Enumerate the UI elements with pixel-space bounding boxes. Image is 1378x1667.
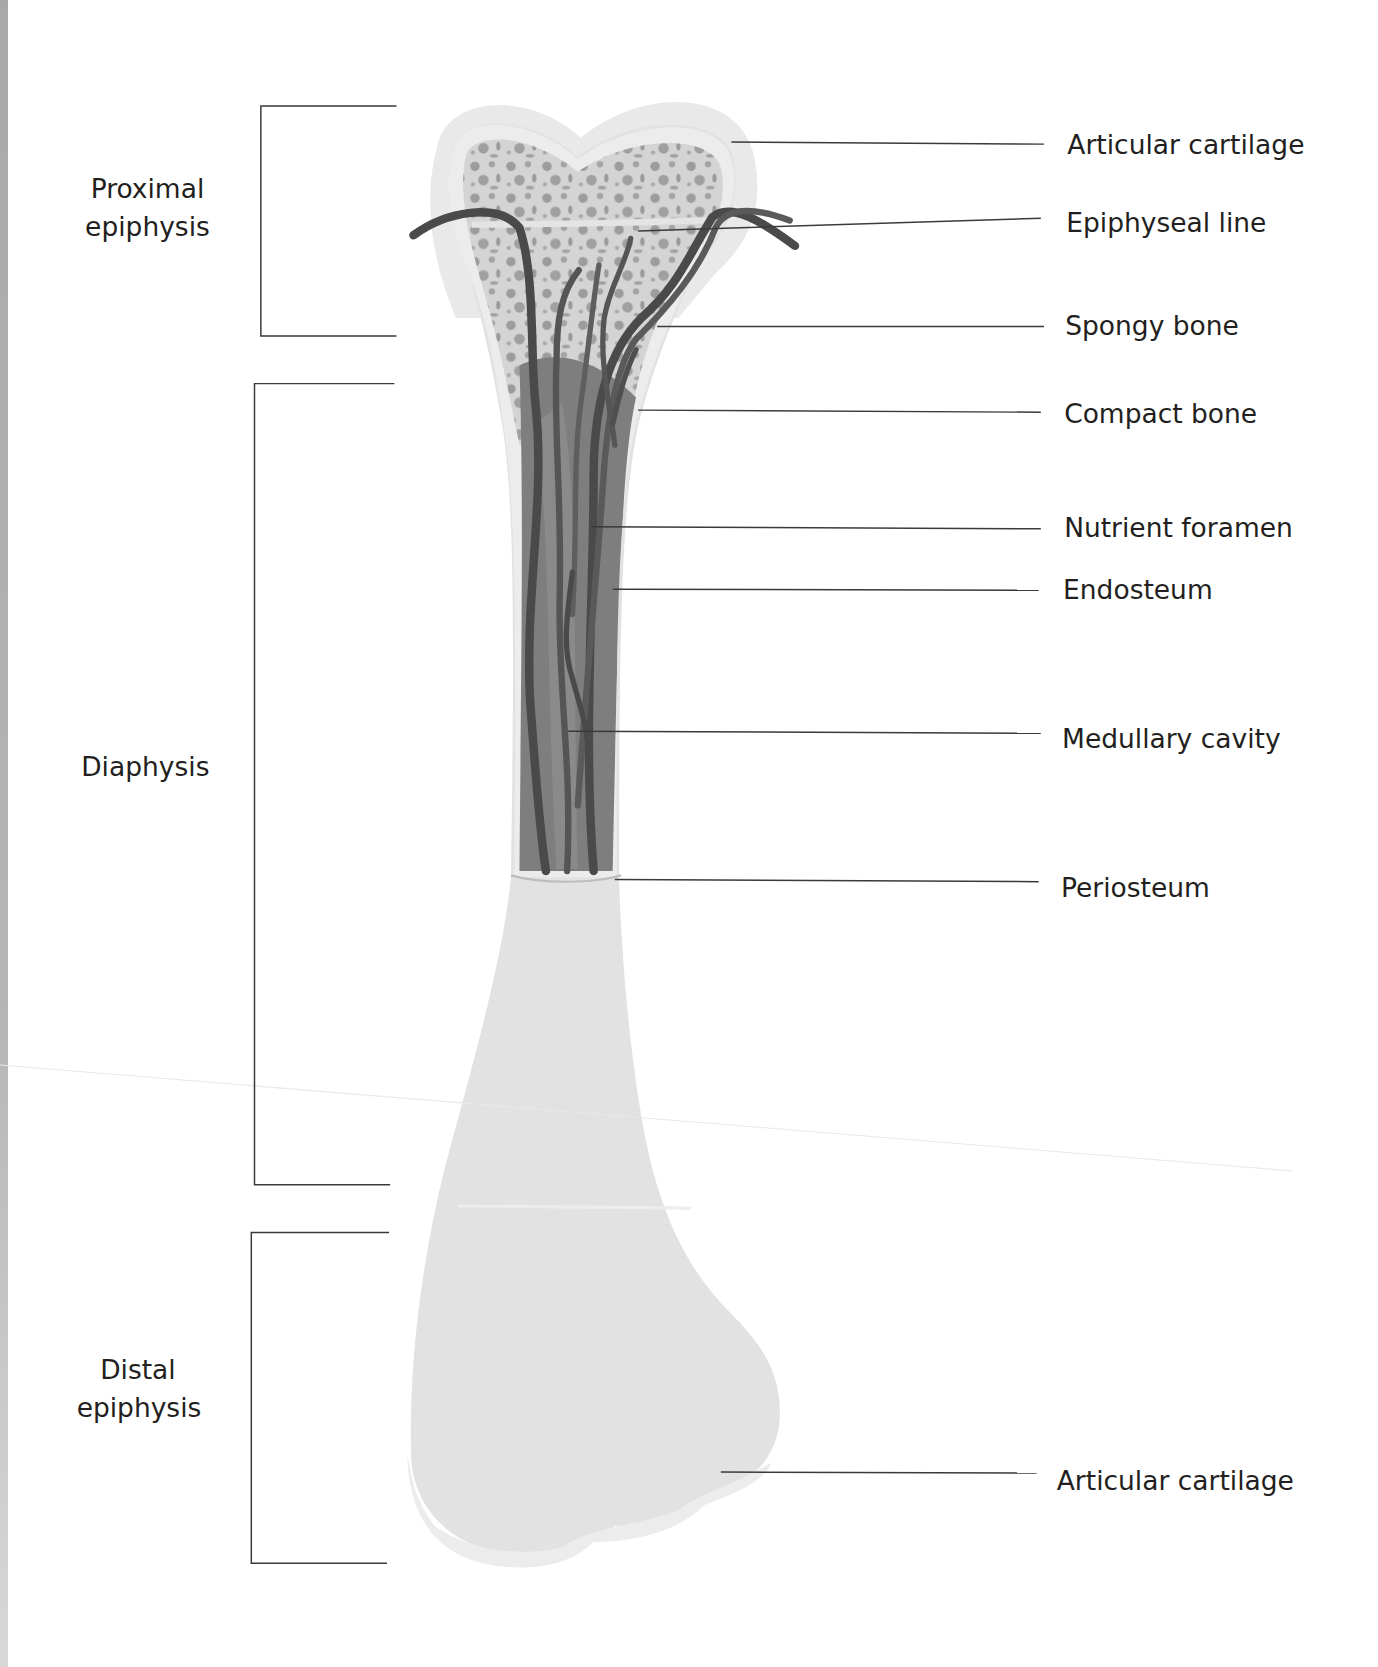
label-articular-cartilage-top: Articular cartilage	[1067, 129, 1304, 160]
region-label-proximal-line2: epiphysis	[85, 211, 210, 242]
bracket-proximal-epiphysis	[261, 106, 397, 336]
leader-endosteum	[613, 589, 1039, 590]
bracket-distal-epiphysis	[251, 1232, 389, 1563]
region-label-distal-line1: Distal	[100, 1354, 176, 1385]
leader-compact-bone	[638, 410, 1041, 412]
label-compact-bone: Compact bone	[1064, 398, 1257, 429]
region-label-distal-line2: epiphysis	[77, 1392, 202, 1423]
bracket-diaphysis	[254, 384, 394, 1185]
region-label-proximal-line1: Proximal	[91, 173, 205, 204]
leader-articular-cartilage-top	[731, 142, 1044, 144]
label-periosteum: Periosteum	[1061, 872, 1210, 903]
label-epiphyseal-line: Epiphyseal line	[1066, 207, 1266, 238]
label-articular-cartilage-bottom: Articular cartilage	[1057, 1465, 1294, 1496]
region-label-diaphysis: Diaphysis	[81, 751, 209, 782]
label-nutrient-foramen: Nutrient foramen	[1064, 512, 1293, 543]
label-spongy-bone: Spongy bone	[1065, 310, 1239, 341]
label-medullary-cavity: Medullary cavity	[1062, 723, 1281, 754]
leader-nutrient-foramen	[592, 527, 1041, 529]
leader-periosteum	[615, 880, 1039, 882]
bone-diagram: Proximal epiphysis Diaphysis Distal epip…	[0, 0, 1378, 1667]
leader-articular-cartilage-bottom	[721, 1472, 1037, 1473]
leader-medullary-cavity	[568, 731, 1041, 733]
label-endosteum: Endosteum	[1063, 574, 1213, 605]
